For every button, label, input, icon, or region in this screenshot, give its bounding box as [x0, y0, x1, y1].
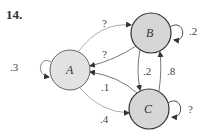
label-b-to-a: ? — [102, 48, 107, 60]
label-a-self: .3 — [10, 61, 19, 73]
node-a-label: A — [65, 63, 74, 77]
label-a-to-c: .4 — [100, 113, 109, 125]
node-c-label: C — [144, 102, 153, 116]
edge-b-self-loop — [170, 25, 183, 40]
edge-c-self-loop — [168, 101, 181, 117]
label-c-self: ? — [188, 103, 193, 115]
edge-b-to-c — [138, 50, 140, 90]
label-b-self: .2 — [189, 25, 197, 37]
label-a-to-b: ? — [102, 17, 107, 29]
edge-a-self-loop — [40, 61, 51, 77]
node-b-label: B — [146, 26, 154, 40]
edge-b-to-a — [90, 46, 136, 66]
label-c-to-b: .8 — [167, 65, 176, 77]
edge-c-to-b — [159, 52, 161, 91]
label-c-to-a: .1 — [101, 81, 109, 93]
edge-c-to-a — [90, 72, 137, 93]
markov-chain-diagram: A B C .3 ? ? .1 .4 .2 .8 .2 ? — [0, 0, 206, 136]
label-b-to-c: .2 — [143, 65, 151, 77]
